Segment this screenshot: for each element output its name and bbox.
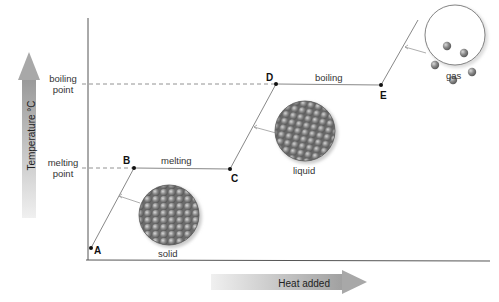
liquid-label: liquid [293,165,315,176]
liquid-particles-icon [275,101,338,164]
boiling-segment-label: boiling [315,72,342,83]
point-a-label: A [94,245,101,256]
melting-segment-label: melting [161,155,192,166]
point-c-label: C [231,173,238,184]
boiling-point-label: boiling point [44,73,82,95]
point-b-label: B [123,155,130,166]
curve-points [89,82,383,250]
point-e-label: E [380,90,387,101]
pointer-lines [119,45,426,203]
point-d-label: D [266,72,273,83]
y-axis-label: Temperature °C [26,91,37,181]
solid-label: solid [158,248,178,259]
melting-point-label: melting point [44,157,82,179]
gas-label: gas [446,70,461,81]
heating-curve-diagram: Temperature °C Heat added boiling point … [0,0,499,302]
x-axis [86,260,490,261]
solid-particles-icon [139,185,202,248]
x-axis-label: Heat added [240,278,330,289]
